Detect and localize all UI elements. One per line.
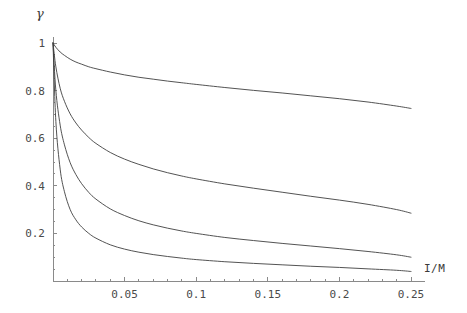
y-tick-label: 0.2	[0, 227, 45, 240]
x-tick-label: 0.15	[255, 288, 282, 301]
x-axis-label: I/M	[424, 262, 445, 275]
data-curve	[53, 43, 411, 213]
y-tick-label: 0.8	[0, 84, 45, 97]
chart-canvas	[0, 0, 467, 313]
data-curves-group	[53, 43, 411, 271]
data-curve	[53, 43, 411, 108]
y-tick-label: 1	[0, 37, 45, 50]
chart-container: γ I/M 0.050.10.150.20.25 0.20.40.60.81	[0, 0, 467, 313]
x-tick-label: 0.1	[186, 288, 206, 301]
y-axis-label: γ	[36, 6, 44, 21]
tick-marks-group	[53, 43, 411, 281]
y-tick-label: 0.4	[0, 179, 45, 192]
data-curve	[53, 43, 411, 271]
x-tick-label: 0.2	[329, 288, 349, 301]
x-tick-label: 0.25	[398, 288, 425, 301]
axes-group	[53, 37, 425, 282]
x-tick-label: 0.05	[111, 288, 138, 301]
y-tick-label: 0.6	[0, 132, 45, 145]
